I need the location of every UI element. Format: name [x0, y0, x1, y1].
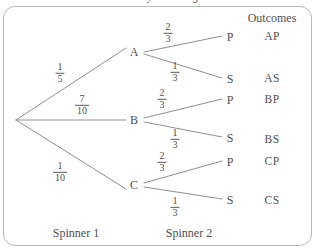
- outcome-cp: CP: [265, 156, 280, 168]
- prob-c-p-denominator: 3: [158, 163, 167, 173]
- outcomes-column-header: Outcomes: [248, 12, 297, 24]
- prob-b-p-numerator: 2: [158, 88, 167, 98]
- prob-c-s-numerator: 1: [171, 196, 180, 206]
- prob-a-p-denominator: 3: [164, 34, 173, 44]
- node-a-label: A: [130, 46, 139, 58]
- prob-a-s-numerator: 1: [171, 61, 180, 71]
- prob-root-c: 1 10: [53, 161, 67, 183]
- prob-c-s: 1 3: [171, 196, 180, 218]
- leaf-b-s-label: S: [227, 132, 234, 144]
- prob-root-c-denominator: 10: [53, 173, 67, 183]
- prob-root-b-numerator: 7: [78, 94, 87, 104]
- prob-root-a-numerator: 1: [56, 62, 65, 72]
- prob-b-p: 2 3: [158, 88, 167, 110]
- leaf-b-p-label: P: [227, 94, 234, 106]
- prob-root-c-numerator: 1: [56, 161, 65, 171]
- prob-b-s-numerator: 1: [171, 128, 180, 138]
- outcome-bs: BS: [265, 134, 280, 146]
- prob-a-p-numerator: 2: [164, 22, 173, 32]
- leaf-a-p-label: P: [227, 31, 234, 43]
- prob-root-a: 1 5: [56, 62, 65, 84]
- prob-root-b-denominator: 10: [75, 106, 89, 116]
- prob-b-s-denominator: 3: [171, 140, 180, 150]
- outcome-bp: BP: [265, 94, 280, 106]
- prob-root-b: 7 10: [75, 94, 89, 116]
- prob-a-p: 2 3: [164, 22, 173, 44]
- prob-c-p: 2 3: [158, 151, 167, 173]
- node-b-label: B: [130, 114, 138, 126]
- probability-tree-figure: Probability tree diagram Outcomes A B C …: [0, 0, 317, 252]
- footer-spinner-1: Spinner 1: [53, 227, 99, 239]
- leaf-c-s-label: S: [227, 194, 234, 206]
- footer-spinner-2: Spinner 2: [166, 227, 212, 239]
- outcome-cs: CS: [265, 195, 280, 207]
- leaf-c-p-label: P: [227, 156, 234, 168]
- prob-b-s: 1 3: [171, 128, 180, 150]
- node-c-label: C: [130, 179, 138, 191]
- prob-a-s-denominator: 3: [171, 73, 180, 83]
- prob-c-p-numerator: 2: [158, 151, 167, 161]
- figure-title: Probability tree diagram: [99, 0, 218, 4]
- leaf-a-s-label: S: [227, 73, 234, 85]
- prob-c-s-denominator: 3: [171, 208, 180, 218]
- prob-b-p-denominator: 3: [158, 100, 167, 110]
- prob-root-a-denominator: 5: [56, 74, 65, 84]
- outcome-as: AS: [264, 73, 280, 85]
- outcome-ap: AP: [264, 31, 280, 43]
- prob-a-s: 1 3: [171, 61, 180, 83]
